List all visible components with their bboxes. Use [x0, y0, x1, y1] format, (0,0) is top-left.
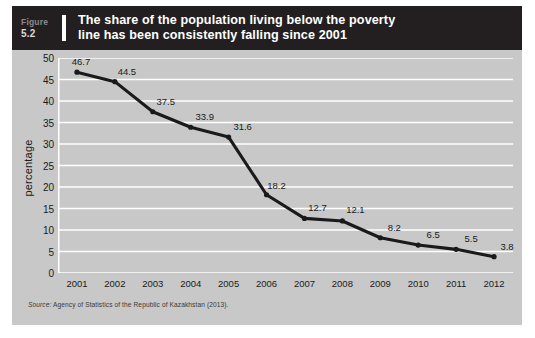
data-point-marker	[74, 70, 79, 75]
y-tick-label: 25	[32, 160, 54, 171]
data-point-label: 6.5	[427, 229, 440, 240]
data-point-label: 44.5	[118, 66, 137, 77]
y-tick-label: 50	[32, 53, 54, 64]
x-tick-label: 2005	[218, 278, 239, 289]
x-tick-label: 2008	[332, 278, 353, 289]
source-lead: Source:	[28, 301, 51, 308]
figure-number: 5.2	[21, 28, 62, 39]
data-point-marker	[150, 109, 155, 114]
data-point-label: 33.9	[195, 111, 214, 122]
x-tick-label: 2003	[142, 278, 163, 289]
x-tick-label: 2001	[66, 278, 87, 289]
data-point-label: 18.2	[267, 180, 286, 191]
figure-header-bar: Figure 5.2 The share of the population l…	[12, 6, 522, 50]
data-point-label: 5.5	[465, 233, 478, 244]
data-point-marker	[378, 235, 383, 240]
data-point-marker	[416, 242, 421, 247]
y-tick-label: 40	[32, 96, 54, 107]
figure-number-block: Figure 5.2	[12, 17, 62, 39]
x-tick-label: 2011	[446, 278, 466, 289]
data-point-marker	[302, 216, 307, 221]
source-text: Agency of Statistics of the Republic of …	[51, 301, 228, 308]
data-point-label: 3.8	[500, 241, 513, 252]
y-tick-label: 15	[32, 203, 54, 214]
data-point-marker	[264, 192, 269, 197]
y-tick-label: 10	[32, 225, 54, 236]
y-axis-tick-labels: 05101520253035404550	[28, 58, 54, 273]
plot-area: 46.744.537.533.931.618.212.712.18.26.55.…	[58, 58, 513, 273]
x-tick-label: 2006	[256, 278, 277, 289]
x-tick-label: 2010	[408, 278, 429, 289]
data-point-marker	[491, 254, 496, 259]
line-chart-svg	[58, 58, 513, 273]
data-point-label: 46.7	[72, 56, 91, 67]
data-point-label: 37.5	[157, 96, 176, 107]
data-point-marker	[340, 218, 345, 223]
x-tick-label: 2002	[104, 278, 125, 289]
figure-root: Figure 5.2 The share of the population l…	[0, 0, 535, 338]
y-tick-label: 5	[32, 246, 54, 257]
data-point-marker	[454, 247, 459, 252]
data-point-label: 12.7	[308, 202, 327, 213]
figure-label-word: Figure	[21, 17, 62, 28]
y-tick-label: 20	[32, 182, 54, 193]
data-point-marker	[226, 135, 231, 140]
y-tick-label: 45	[32, 74, 54, 85]
source-note: Source: Agency of Statistics of the Repu…	[28, 301, 229, 308]
data-point-marker	[188, 125, 193, 130]
header-divider	[62, 15, 66, 41]
chart-card: percentage 05101520253035404550 46.744.5…	[12, 50, 522, 325]
data-point-label: 8.2	[388, 222, 401, 233]
data-point-label: 12.1	[346, 204, 365, 215]
y-tick-label: 0	[32, 268, 54, 279]
y-tick-label: 35	[32, 117, 54, 128]
x-axis-tick-labels: 2001200220032004200520062007200820092010…	[58, 278, 513, 294]
x-tick-label: 2004	[180, 278, 201, 289]
data-point-label: 31.6	[233, 121, 252, 132]
y-tick-label: 30	[32, 139, 54, 150]
figure-title: The share of the population living below…	[78, 13, 395, 43]
x-tick-label: 2012	[483, 278, 504, 289]
data-point-marker	[112, 79, 117, 84]
x-tick-label: 2009	[370, 278, 391, 289]
x-tick-label: 2007	[294, 278, 315, 289]
